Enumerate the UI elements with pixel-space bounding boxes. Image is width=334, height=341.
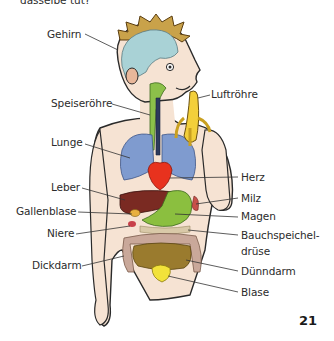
label-duenndarm: Dünndarm <box>241 265 296 277</box>
label-niere: Niere <box>47 227 74 239</box>
label-gallenblase: Gallenblase <box>16 205 76 217</box>
ear <box>126 68 138 84</box>
label-dickdarm: Dickdarm <box>32 259 82 271</box>
trachea <box>156 98 160 155</box>
label-herz: Herz <box>241 171 265 183</box>
label-milz: Milz <box>241 192 261 204</box>
label-gehirn: Gehirn <box>47 28 81 40</box>
page-number: 21 <box>299 313 317 328</box>
anatomy-figure: dasselbe tut? <box>0 0 334 341</box>
body-illustration <box>0 0 334 341</box>
gallbladder <box>130 210 140 217</box>
label-lunge: Lunge <box>51 136 83 148</box>
label-speiseroehre: Speiseröhre <box>51 97 112 109</box>
label-bauchspeicheldruese-line2: drüse <box>241 245 270 257</box>
label-bauchspeicheldruese-line1: Bauchspeichel- <box>241 229 319 241</box>
label-leber: Leber <box>51 181 80 193</box>
label-magen: Magen <box>241 210 276 222</box>
label-luftroehre: Luftröhre <box>211 88 258 100</box>
label-blase: Blase <box>241 286 269 298</box>
